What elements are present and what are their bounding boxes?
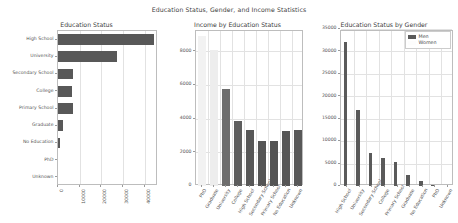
tick-x (100, 185, 101, 187)
tick-y (193, 118, 195, 119)
tick-y (55, 108, 57, 109)
subplot2-title: Income by Education Status (165, 21, 310, 28)
tick-x (297, 185, 298, 187)
ytick-label: 4000 (165, 115, 192, 120)
tick-x (261, 185, 262, 187)
ytick-label: College (0, 88, 54, 93)
subplot1-plot-area (57, 30, 157, 185)
subplot-education-status: Education Status 010000200003000040000Hi… (0, 0, 165, 223)
tick-y (55, 39, 57, 40)
ytick-label-zero: 0 (165, 182, 192, 187)
tick-x (249, 185, 250, 187)
tick-y (338, 185, 340, 186)
xtick-label: 10000 (81, 189, 86, 215)
gridline-x (244, 31, 245, 184)
tick-x (397, 185, 398, 187)
subplot1-title: Education Status (8, 21, 165, 28)
tick-y (338, 73, 340, 74)
subplot3-plot-area (340, 30, 453, 185)
tick-x (144, 185, 145, 187)
bar (58, 120, 63, 131)
tick-y (55, 73, 57, 74)
tick-y (338, 163, 340, 164)
subplot-education-by-gender: Education Status by Gender Men Women 050… (310, 0, 458, 223)
bar (258, 141, 266, 186)
gridline-y (341, 74, 452, 75)
ytick-label: PhD (0, 157, 54, 162)
gridline-x (123, 31, 124, 184)
bar-men (344, 42, 348, 186)
ytick-label: Primary School (0, 105, 54, 110)
tick-y (55, 159, 57, 160)
gridline-x (379, 31, 380, 184)
gridline-x (268, 31, 269, 184)
ytick-label: No Education (0, 139, 54, 144)
tick-y (193, 84, 195, 85)
tick-x (434, 185, 435, 187)
bar (222, 89, 230, 186)
bar (210, 50, 218, 186)
ytick-label: University (0, 53, 54, 58)
tick-x (273, 185, 274, 187)
ytick-label: 10000 (310, 137, 337, 142)
gridline-x (256, 31, 257, 184)
tick-x (422, 185, 423, 187)
tick-y (193, 151, 195, 152)
tick-y (338, 140, 340, 141)
gridline-x (441, 31, 442, 184)
legend-label-women: Women (419, 40, 437, 46)
bar-men (356, 110, 360, 186)
ytick-label: Secondary School (0, 70, 54, 75)
tick-y (338, 118, 340, 119)
ytick-label: 2000 (165, 149, 192, 154)
bar (198, 36, 206, 186)
bar (58, 103, 73, 114)
gridline-x (280, 31, 281, 184)
legend-swatch-women (408, 41, 416, 44)
tick-x (225, 185, 226, 187)
ytick-label: 6000 (165, 81, 192, 86)
ytick-label: 20000 (310, 93, 337, 98)
tick-y (55, 90, 57, 91)
xtick-label: 30000 (124, 189, 129, 215)
tick-x (79, 185, 80, 187)
tick-x (285, 185, 286, 187)
xtick-label: 20000 (102, 189, 107, 215)
tick-x (371, 185, 372, 187)
bar (246, 130, 254, 186)
bar (294, 130, 302, 186)
tick-x (237, 185, 238, 187)
tick-y (55, 142, 57, 143)
legend: Men Women (405, 31, 451, 49)
legend-swatch-men (408, 35, 416, 38)
gridline-x (292, 31, 293, 184)
gridline-x (416, 31, 417, 184)
gridline-x (208, 31, 209, 184)
tick-x (409, 185, 410, 187)
ytick-label: 35000 (310, 25, 337, 30)
bar (58, 51, 117, 62)
bar (282, 131, 290, 186)
tick-x (447, 185, 448, 187)
gridline-x (220, 31, 221, 184)
tick-y (193, 50, 195, 51)
gridline-x (404, 31, 405, 184)
gridline-y (341, 29, 452, 30)
figure-canvas: Education Status, Gender, and Income Sta… (0, 0, 458, 223)
ytick-label: 15000 (310, 115, 337, 120)
tick-y (338, 50, 340, 51)
ytick-label: 8000 (165, 48, 192, 53)
gridline-x (429, 31, 430, 184)
gridline-x (366, 31, 367, 184)
subplot-income-by-education: Income by Education Status 2000400060008… (165, 0, 310, 223)
tick-y (55, 176, 57, 177)
ytick-label: High School (0, 36, 54, 41)
ytick-label: Unknown (0, 174, 54, 179)
tick-x (346, 185, 347, 187)
gridline-x (232, 31, 233, 184)
legend-entry-women: Women (408, 40, 447, 46)
tick-x (201, 185, 202, 187)
ytick-label: 30000 (310, 48, 337, 53)
tick-x (359, 185, 360, 187)
tick-y (338, 28, 340, 29)
